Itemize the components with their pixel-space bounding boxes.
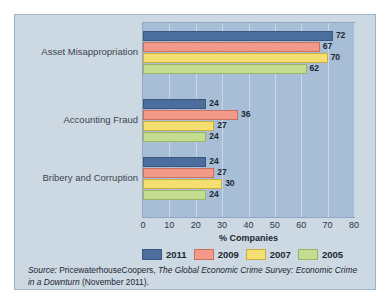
- bar-value-label: 24: [209, 188, 218, 200]
- legend-item-2009[interactable]: 2009: [194, 249, 239, 260]
- plot-area: 726770622436272424273024: [142, 22, 355, 218]
- bar-value-label: 70: [331, 51, 340, 63]
- bar-2005-3[interactable]: [143, 190, 206, 200]
- category-label-2: Accounting Fraud: [18, 114, 138, 125]
- bar-2011-1[interactable]: [143, 31, 333, 41]
- x-tick-0: 0: [140, 220, 145, 230]
- x-axis-ticks: 01020304050607080: [142, 219, 355, 233]
- bar-2011-2[interactable]: [143, 99, 206, 109]
- bar-2009-3[interactable]: [143, 168, 214, 178]
- bar-2005-2[interactable]: [143, 132, 206, 142]
- legend-swatch-2007: [246, 249, 266, 260]
- source-prefix: Source:: [28, 265, 57, 275]
- x-tick-70: 70: [323, 220, 333, 230]
- bar-value-label: 30: [225, 177, 234, 189]
- bar-value-label: 24: [209, 97, 218, 109]
- bar-row: 27: [143, 121, 354, 131]
- bar-value-label: 72: [336, 29, 345, 41]
- legend-item-2011[interactable]: 2011: [142, 249, 187, 260]
- chart-legend: 2011200920072005: [142, 247, 370, 261]
- x-tick-10: 10: [164, 220, 174, 230]
- bar-row: 36: [143, 110, 354, 120]
- x-tick-20: 20: [191, 220, 201, 230]
- bar-row: 24: [143, 132, 354, 142]
- x-tick-30: 30: [217, 220, 227, 230]
- category-label-3: Bribery and Corruption: [18, 172, 138, 183]
- x-tick-50: 50: [270, 220, 280, 230]
- legend-label-2009: 2009: [218, 249, 239, 260]
- bar-2007-1[interactable]: [143, 53, 328, 63]
- bar-row: 24: [143, 157, 354, 167]
- source-note: Source: PricewaterhouseCoopers, The Glob…: [28, 265, 364, 288]
- legend-swatch-2011: [142, 249, 162, 260]
- legend-item-2007[interactable]: 2007: [246, 249, 291, 260]
- bar-row: 27: [143, 168, 354, 178]
- x-tick-40: 40: [243, 220, 253, 230]
- x-tick-80: 80: [349, 220, 359, 230]
- bar-2005-1[interactable]: [143, 64, 307, 74]
- legend-label-2007: 2007: [270, 249, 291, 260]
- x-axis-title: % Companies: [142, 233, 355, 243]
- bar-row: 67: [143, 42, 354, 52]
- legend-swatch-2005: [298, 249, 318, 260]
- bar-row: 62: [143, 64, 354, 74]
- legend-label-2005: 2005: [322, 249, 343, 260]
- x-tick-60: 60: [296, 220, 306, 230]
- bar-row: 70: [143, 53, 354, 63]
- bar-value-label: 36: [241, 108, 250, 120]
- bar-row: 30: [143, 179, 354, 189]
- bar-2007-2[interactable]: [143, 121, 214, 131]
- category-label-1: Asset Misappropriation: [18, 46, 138, 57]
- source-publisher: PricewaterhouseCoopers,: [59, 265, 155, 275]
- category-axis-labels: Asset MisappropriationAccounting FraudBr…: [15, 22, 138, 218]
- bar-value-label: 62: [310, 62, 319, 74]
- gridline-80: [354, 23, 355, 217]
- bar-row: 24: [143, 190, 354, 200]
- chart-figure: 726770622436272424273024 Asset Misapprop…: [14, 14, 376, 290]
- legend-item-2005[interactable]: 2005: [298, 249, 343, 260]
- source-suffix: (November 2011).: [82, 277, 149, 287]
- bar-value-label: 24: [209, 130, 218, 142]
- legend-label-2011: 2011: [166, 249, 187, 260]
- legend-swatch-2009: [194, 249, 214, 260]
- bar-2011-3[interactable]: [143, 157, 206, 167]
- bar-2009-1[interactable]: [143, 42, 320, 52]
